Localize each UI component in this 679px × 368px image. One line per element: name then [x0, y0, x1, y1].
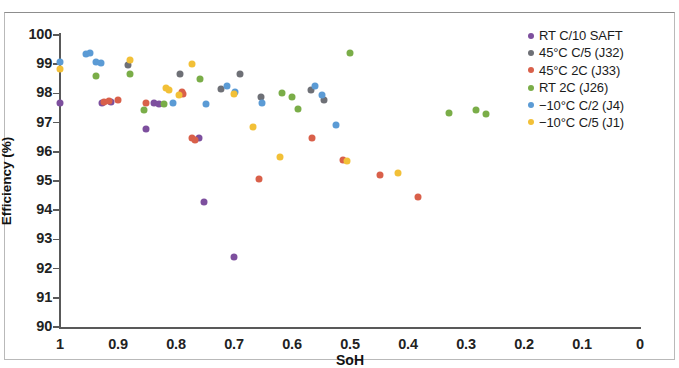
x-axis-line: [59, 327, 641, 329]
y-tick-label: 93: [18, 230, 52, 246]
data-point: [231, 90, 238, 97]
data-point: [312, 83, 319, 90]
data-point: [161, 101, 168, 108]
y-tick: [53, 93, 59, 95]
legend-item-label: −10°C C/2 (J4): [539, 98, 624, 113]
legend-item-label: RT 2C (J26): [539, 80, 608, 95]
x-tick-label: 0.2: [514, 336, 534, 352]
data-point: [126, 71, 133, 78]
legend-item[interactable]: RT C/10 SAFT: [527, 28, 624, 43]
legend-item[interactable]: −10°C C/5 (J1): [527, 115, 624, 130]
data-point: [115, 96, 122, 103]
data-point: [189, 61, 196, 68]
data-point: [319, 91, 326, 98]
data-point: [308, 135, 315, 142]
data-point: [177, 70, 184, 77]
data-point: [142, 126, 149, 133]
legend-marker-icon: [528, 119, 534, 125]
y-tick-label: 94: [18, 201, 52, 217]
legend: RT C/10 SAFT45°C C/5 (J32)45°C 2C (J33)R…: [527, 28, 624, 130]
y-tick-label: 91: [18, 289, 52, 305]
data-point: [191, 137, 198, 144]
data-point: [140, 106, 147, 113]
data-point: [482, 110, 489, 117]
y-tick-label: 97: [18, 114, 52, 130]
y-tick-label: 99: [18, 55, 52, 71]
data-point: [236, 71, 243, 78]
data-point: [332, 121, 339, 128]
data-point: [169, 100, 176, 107]
y-tick: [53, 239, 59, 241]
x-tick-label: 0.6: [282, 336, 302, 352]
data-point: [289, 93, 296, 100]
y-tick: [53, 34, 59, 36]
x-tick-label: 0.8: [166, 336, 186, 352]
data-point: [203, 101, 210, 108]
data-point: [258, 100, 265, 107]
data-point: [255, 176, 262, 183]
y-tick-label: 92: [18, 260, 52, 276]
data-point: [377, 171, 384, 178]
data-point: [224, 83, 231, 90]
legend-marker-icon: [528, 50, 534, 56]
data-point: [197, 75, 204, 82]
y-tick: [53, 297, 59, 299]
data-point: [249, 123, 256, 130]
x-tick-label: 0.4: [398, 336, 418, 352]
y-axis-title: Efficiency (%): [0, 137, 14, 226]
legend-item[interactable]: RT 2C (J26): [527, 80, 624, 95]
x-tick-label: 0.5: [340, 336, 360, 352]
y-tick: [53, 209, 59, 211]
data-point: [97, 60, 104, 67]
legend-marker-icon: [528, 102, 534, 108]
data-point: [347, 50, 354, 57]
x-tick-label: 0.1: [572, 336, 592, 352]
y-tick-label: 90: [18, 318, 52, 334]
y-tick: [53, 180, 59, 182]
data-point: [92, 73, 99, 80]
data-point: [87, 49, 94, 56]
data-point: [105, 97, 112, 104]
data-point: [294, 105, 301, 112]
data-point: [279, 90, 286, 97]
x-tick-label: 0.3: [456, 336, 476, 352]
y-tick: [53, 268, 59, 270]
x-tick-label: 0.7: [224, 336, 244, 352]
y-tick-label: 95: [18, 172, 52, 188]
data-point: [445, 110, 452, 117]
legend-item-label: −10°C C/5 (J1): [539, 115, 624, 130]
data-point: [414, 193, 421, 200]
scatter-chart: 10099989796959493929190 Efficiency (%) 1…: [0, 0, 679, 368]
data-point: [200, 199, 207, 206]
data-point: [126, 56, 133, 63]
y-tick-label: 96: [18, 143, 52, 159]
legend-item[interactable]: 45°C C/5 (J32): [527, 45, 624, 60]
legend-item[interactable]: −10°C C/2 (J4): [527, 98, 624, 113]
legend-marker-icon: [528, 85, 534, 91]
x-tick-label: 1: [56, 336, 64, 352]
x-tick-label: 0: [636, 336, 644, 352]
x-axis-title: SoH: [336, 352, 364, 368]
legend-item-label: 45°C 2C (J33): [539, 63, 620, 78]
legend-item-label: 45°C C/5 (J32): [539, 45, 624, 60]
data-point: [472, 107, 479, 114]
legend-marker-icon: [528, 33, 534, 39]
y-tick: [53, 151, 59, 153]
data-point: [231, 253, 238, 260]
y-tick: [53, 122, 59, 124]
y-tick-label: 100: [18, 26, 52, 42]
data-point: [57, 66, 64, 73]
x-tick-label: 0.9: [108, 336, 128, 352]
legend-marker-icon: [528, 67, 534, 73]
data-point: [344, 157, 351, 164]
data-point: [57, 58, 64, 65]
legend-item-label: RT C/10 SAFT: [539, 28, 623, 43]
legend-item[interactable]: 45°C 2C (J33): [527, 63, 624, 78]
data-point: [277, 154, 284, 161]
y-tick-label: 98: [18, 84, 52, 100]
data-point: [175, 91, 182, 98]
data-point: [394, 169, 401, 176]
data-point: [166, 87, 173, 94]
data-point: [57, 99, 64, 106]
